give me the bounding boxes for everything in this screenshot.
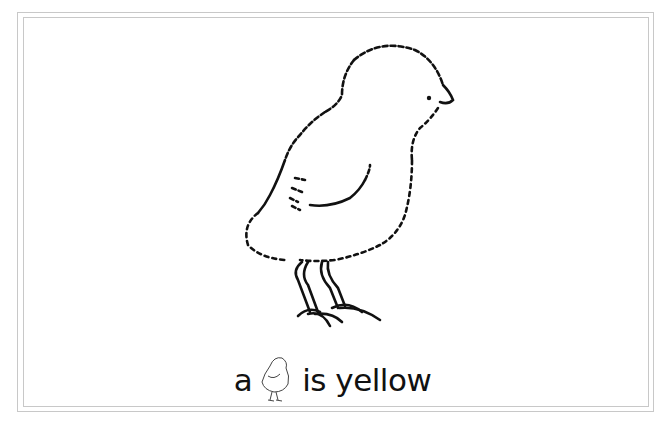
chick-icon — [256, 354, 296, 406]
caption-phrase: is yellow — [302, 362, 431, 398]
caption-word-a: a — [234, 362, 253, 398]
chick-illustration — [230, 30, 470, 350]
caption: a is yellow — [0, 350, 665, 410]
